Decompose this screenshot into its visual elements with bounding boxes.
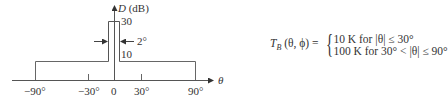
brace-icon: { xyxy=(325,32,332,56)
y-tick-10: 10 xyxy=(121,48,133,60)
formula-cases: 10 K for |θ| ≤ 30° 100 K for 30° < |θ| ≤… xyxy=(333,33,447,57)
formula-lhs: TB (θ, ϕ) = xyxy=(270,37,319,52)
x-axis-label: θ xyxy=(218,74,224,86)
x-tick-minus90: −90° xyxy=(24,85,46,97)
sidelobe-level-right xyxy=(120,62,196,81)
brightness-temperature-formula: TB (θ, ϕ) = { 10 K for |θ| ≤ 30° 100 K f… xyxy=(270,33,448,57)
y-axis-label: D (dB) xyxy=(117,2,149,15)
x-tick-90: 90° xyxy=(188,85,203,97)
beamwidth-label: 2° xyxy=(137,35,147,47)
x-tick-0: 0 xyxy=(111,85,117,97)
sidelobe-level xyxy=(36,62,109,81)
y-tick-30: 30 xyxy=(121,15,133,27)
x-tick-minus30: −30° xyxy=(78,85,100,97)
case-1: 10 K for |θ| ≤ 30° xyxy=(333,33,447,45)
case-2: 100 K for 30° < |θ| ≤ 90° xyxy=(333,45,447,57)
x-tick-30: 30° xyxy=(134,85,149,97)
